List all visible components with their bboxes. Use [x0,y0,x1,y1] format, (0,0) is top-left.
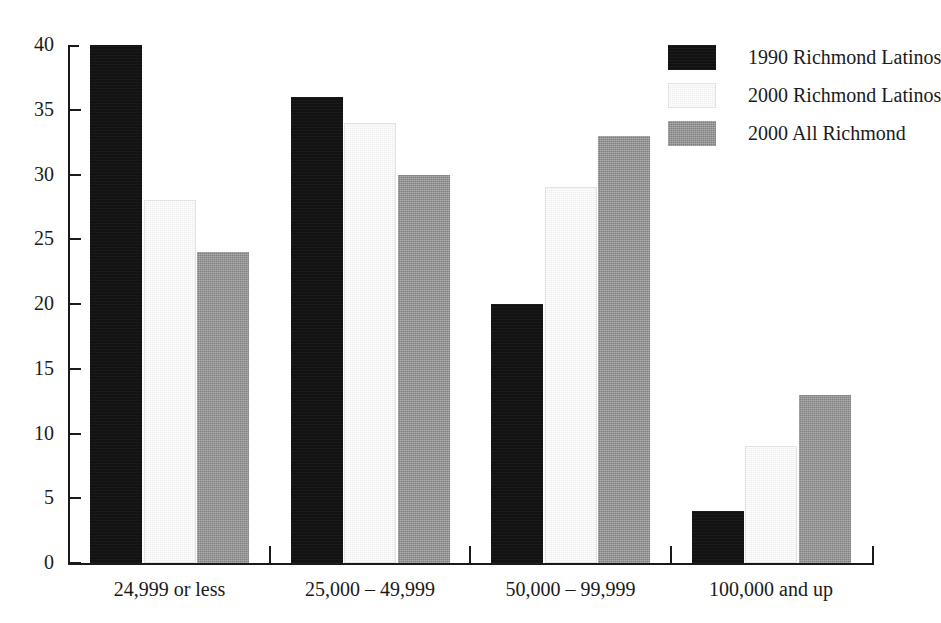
bar [398,175,450,564]
legend-entry-1990-richmond-latinos[interactable]: 1990 Richmond Latinos [668,38,941,76]
x-axis-right-cap [872,546,874,565]
legend-entry-2000-richmond-latinos[interactable]: 2000 Richmond Latinos [668,76,941,114]
bar [799,395,851,563]
x-axis-group-label: 100,000 and up [661,578,881,600]
legend-label-series-1: 2000 Richmond Latinos [748,84,941,106]
y-axis-tick-label: 35 [0,99,54,119]
bar [745,446,797,563]
x-axis-group-label: 24,999 or less [60,578,280,600]
y-axis-tick-label: 20 [0,293,54,313]
y-axis-tick-label: 40 [0,34,54,54]
x-axis-line [68,563,874,565]
bar [291,97,343,563]
x-axis-group-label: 25,000 – 49,999 [260,578,480,600]
bar [90,45,142,563]
bar [344,123,396,563]
x-axis-group-label: 50,000 – 99,999 [461,578,681,600]
bar [144,200,196,563]
y-axis-tick-label: 0 [0,552,54,572]
bar [491,304,543,563]
bar [598,136,650,563]
bar [692,511,744,563]
chart-legend: 1990 Richmond Latinos 2000 Richmond Lati… [668,38,941,152]
y-axis-tick-label: 5 [0,487,54,507]
legend-label-series-0: 1990 Richmond Latinos [748,46,941,68]
legend-swatch-icon-series-0 [668,45,716,70]
y-axis-tick-label: 30 [0,164,54,184]
y-axis-tick-label: 25 [0,228,54,248]
legend-swatch-icon-series-1 [668,83,716,108]
legend-swatch-icon-series-2 [668,121,716,146]
bar [197,252,249,563]
legend-label-series-2: 2000 All Richmond [748,122,906,144]
bar [545,187,597,563]
y-axis-tick-label: 10 [0,423,54,443]
legend-entry-2000-all-richmond[interactable]: 2000 All Richmond [668,114,941,152]
y-axis-tick-label: 15 [0,358,54,378]
